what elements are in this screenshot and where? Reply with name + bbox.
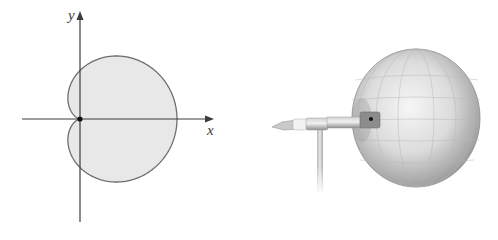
microphone — [272, 112, 380, 130]
cardioid-diagram: y x — [0, 0, 250, 240]
y-axis-arrow-icon — [77, 11, 84, 20]
microphone-pickup-pattern-illustration — [250, 0, 498, 240]
x-axis-label: x — [206, 122, 214, 138]
y-axis-label: y — [66, 7, 75, 23]
origin-point — [77, 116, 82, 121]
microphone-capsule-point — [369, 117, 373, 121]
cardioid-plot: y x — [0, 0, 250, 240]
microphone-scene — [250, 0, 498, 240]
